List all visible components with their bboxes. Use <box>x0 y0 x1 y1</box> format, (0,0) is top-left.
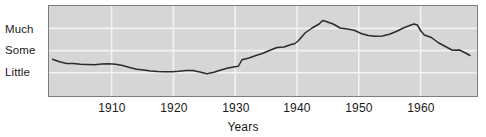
x-tick-label-1940: 1940 <box>276 102 318 114</box>
x-tick-label-1950: 1950 <box>338 102 380 114</box>
x-tick-label-1910: 1910 <box>91 102 133 114</box>
line-chart-svg <box>49 6 477 96</box>
x-tick-label-1920: 1920 <box>153 102 195 114</box>
x-tick-label-1930: 1930 <box>215 102 257 114</box>
y-tick-label-little: Little <box>5 67 30 79</box>
chart-figure: Much Some Little 1910 1920 1930 1940 195… <box>0 0 486 137</box>
gridlines <box>49 6 477 96</box>
y-tick-label-some: Some <box>5 45 35 57</box>
x-tick-label-1960: 1960 <box>400 102 442 114</box>
y-tick-label-much: Much <box>5 24 34 36</box>
plot-area <box>48 5 478 97</box>
x-axis-title: Years <box>213 121 273 133</box>
